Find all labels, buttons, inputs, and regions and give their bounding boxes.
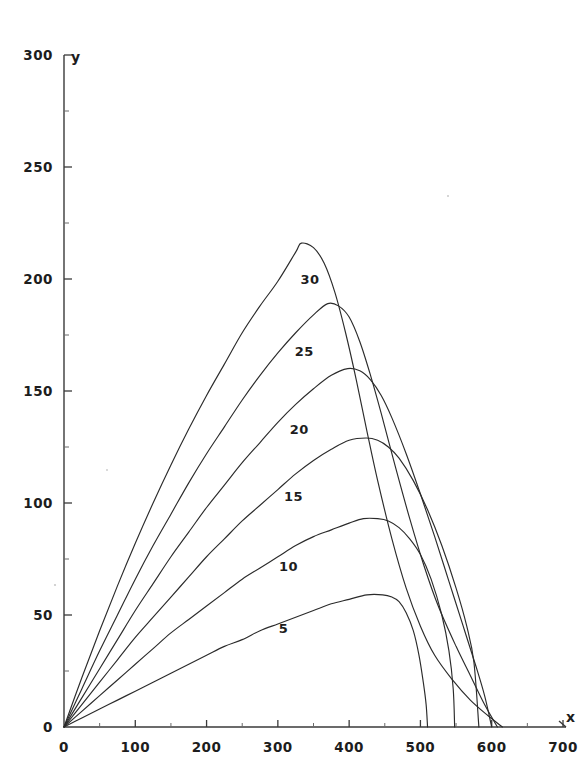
curve-label-15: 15	[284, 489, 303, 504]
x-axis-label: x	[566, 709, 575, 725]
chart-figure: 0100200300400500600700050100150200250300…	[0, 0, 585, 777]
y-tick-label: 250	[23, 159, 53, 175]
x-tick-label: 200	[192, 739, 222, 755]
scan-artifacts	[54, 195, 449, 586]
major-ticks-group	[64, 55, 563, 727]
x-tick-label: 500	[406, 739, 436, 755]
y-tick-label: 100	[23, 495, 53, 511]
curves-group	[64, 243, 502, 727]
y-tick-label: 300	[23, 47, 53, 63]
minor-ticks-group	[64, 111, 527, 727]
y-tick-label: 200	[23, 271, 53, 287]
x-tick-label: 700	[548, 739, 578, 755]
curve-label-25: 25	[295, 344, 314, 359]
curve-labels-group: 30252015105	[279, 272, 320, 636]
curve-label-5: 5	[279, 621, 289, 636]
trajectory-plot: 0100200300400500600700050100150200250300…	[0, 0, 585, 777]
trajectory-curve-5	[64, 594, 428, 727]
y-tick-label: 0	[43, 719, 53, 735]
y-tick-label: 50	[33, 607, 53, 623]
trajectory-curve-10	[64, 518, 455, 727]
x-tick-label: 100	[120, 739, 150, 755]
curve-label-10: 10	[279, 559, 298, 574]
x-tick-label: 400	[334, 739, 364, 755]
x-tick-label: 0	[59, 739, 69, 755]
x-tick-label: 300	[263, 739, 293, 755]
axes-group	[64, 55, 566, 727]
curve-label-20: 20	[290, 422, 309, 437]
curve-label-30: 30	[300, 272, 319, 287]
y-tick-label: 150	[23, 383, 53, 399]
trajectory-curve-25	[64, 303, 497, 727]
y-axis-label: y	[71, 49, 80, 65]
tick-labels-group: 0100200300400500600700050100150200250300	[23, 47, 578, 755]
trajectory-curve-20	[64, 368, 492, 727]
x-tick-label: 600	[477, 739, 507, 755]
